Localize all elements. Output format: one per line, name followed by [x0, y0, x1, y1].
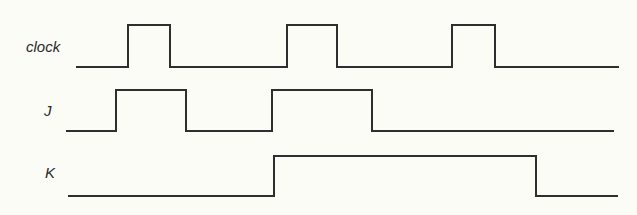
- signal-label-clock: clock: [26, 38, 62, 55]
- waveform-k: [69, 156, 617, 196]
- signal-label-k: K: [45, 164, 56, 181]
- waveform-clock: [77, 25, 618, 67]
- signal-j: J: [43, 90, 613, 131]
- signal-label-j: J: [43, 102, 52, 119]
- timing-diagram: clock J K: [0, 0, 637, 215]
- waveform-j: [67, 90, 613, 131]
- signal-k: K: [45, 156, 617, 196]
- signal-clock: clock: [26, 25, 618, 67]
